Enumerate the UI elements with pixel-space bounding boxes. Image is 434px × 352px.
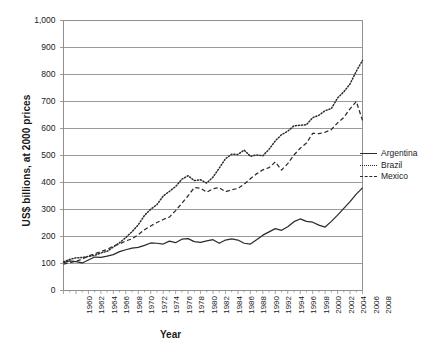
line-chart: US$ billions, at 2000 prices Year 010020… bbox=[0, 0, 434, 352]
series-line-brazil bbox=[64, 60, 363, 261]
legend-label: Brazil bbox=[381, 160, 402, 172]
legend-swatch-solid-icon bbox=[360, 150, 377, 158]
legend-label: Argentina bbox=[381, 148, 417, 160]
legend-item-brazil: Brazil bbox=[360, 160, 417, 172]
legend-swatch-dotted-icon bbox=[360, 161, 377, 169]
legend-swatch-dashed-icon bbox=[360, 173, 377, 181]
legend-label: Mexico bbox=[381, 171, 408, 183]
legend-item-argentina: Argentina bbox=[360, 148, 417, 160]
series-line-argentina bbox=[64, 188, 363, 263]
legend-item-mexico: Mexico bbox=[360, 171, 417, 183]
chart-legend: ArgentinaBrazilMexico bbox=[360, 148, 417, 183]
